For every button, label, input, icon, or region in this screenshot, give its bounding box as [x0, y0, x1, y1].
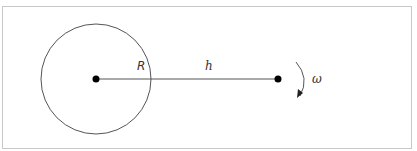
center-dot [93, 76, 100, 83]
radius-label: R [137, 59, 145, 73]
distance-label: h [205, 59, 213, 73]
diagram-canvas: R h ω [0, 0, 417, 151]
angular-velocity-label: ω [312, 72, 322, 86]
orbiting-point-dot [275, 76, 282, 83]
diagram-frame [3, 7, 412, 149]
